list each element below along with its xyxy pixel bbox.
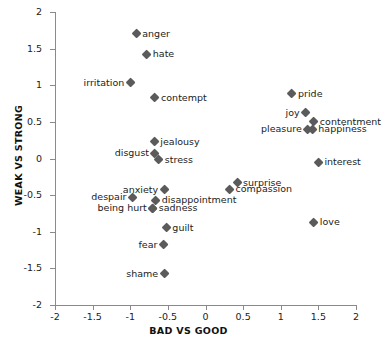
y-axis-title: WEAK VS STRONG (13, 76, 24, 236)
y-tick (50, 232, 55, 233)
y-axis-line (55, 12, 56, 306)
x-tick (206, 305, 207, 310)
diamond-marker (131, 29, 141, 39)
data-point-label: disgust (115, 148, 149, 158)
x-tick (168, 305, 169, 310)
x-tick-label: 1 (264, 312, 298, 322)
x-tick-label: -0.5 (151, 312, 185, 322)
y-tick (50, 195, 55, 196)
data-point-label: being hurt (98, 203, 147, 213)
y-tick-label: -1.5 (14, 263, 42, 273)
y-tick (50, 122, 55, 123)
y-tick-label: -2 (14, 300, 42, 310)
data-point-label: stress (165, 155, 193, 165)
diamond-marker (158, 240, 168, 250)
y-tick-label: 2 (14, 7, 42, 17)
diamond-marker (224, 184, 234, 194)
data-point-label: fear (138, 240, 157, 250)
y-tick (50, 85, 55, 86)
data-point-label: pleasure (261, 124, 302, 134)
data-point-label: irritation (84, 78, 125, 88)
data-point-label: compassion (236, 184, 293, 194)
data-point-label: sadness (159, 203, 198, 213)
x-tick (55, 305, 56, 310)
y-tick (50, 12, 55, 13)
y-tick (50, 159, 55, 160)
data-point-label: happiness (318, 124, 366, 134)
data-point-label: love (320, 217, 340, 227)
x-tick (93, 305, 94, 310)
diamond-marker (149, 137, 159, 147)
diamond-marker (159, 268, 169, 278)
data-point-label: jealousy (160, 137, 199, 147)
y-tick (50, 49, 55, 50)
y-tick-label: 1.5 (14, 44, 42, 54)
diamond-marker (300, 108, 310, 118)
x-tick-label: 1.5 (301, 312, 335, 322)
x-tick-label: 0.5 (226, 312, 260, 322)
data-point-label: pride (298, 89, 322, 99)
x-tick (243, 305, 244, 310)
x-tick-label: -1 (113, 312, 147, 322)
y-tick (50, 268, 55, 269)
diamond-marker (142, 49, 152, 59)
data-point-label: guilt (172, 223, 193, 233)
data-point-label: hate (153, 49, 174, 59)
data-point-label: anger (142, 29, 170, 39)
diamond-marker (161, 223, 171, 233)
x-tick-label: -2 (38, 312, 72, 322)
x-tick (318, 305, 319, 310)
data-point-label: contempt (161, 93, 207, 103)
data-point-label: shame (126, 269, 158, 279)
x-tick (356, 305, 357, 310)
x-axis-title: BAD VS GOOD (0, 325, 377, 336)
x-tick-label: -1.5 (76, 312, 110, 322)
data-point-label: interest (324, 157, 360, 167)
diamond-marker (309, 217, 319, 227)
diamond-marker (287, 89, 297, 99)
x-tick-label: 2 (339, 312, 373, 322)
diamond-marker (313, 157, 323, 167)
diamond-marker (154, 155, 164, 165)
diamond-marker (125, 78, 135, 88)
x-tick-label: 0 (189, 312, 223, 322)
data-point-label: joy (286, 108, 300, 118)
x-tick (281, 305, 282, 310)
diamond-marker (148, 203, 158, 213)
diamond-marker (150, 93, 160, 103)
data-point-label: anxiety (123, 185, 158, 195)
x-tick (130, 305, 131, 310)
data-point-label: despair (91, 192, 126, 202)
